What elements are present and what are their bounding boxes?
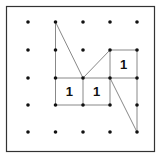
grid-dot: [54, 103, 58, 107]
grid-dot: [135, 48, 139, 52]
grid-dot: [54, 20, 58, 24]
grid-dot: [81, 76, 85, 80]
grid-dot: [26, 48, 30, 52]
grid-dot: [26, 130, 30, 134]
grid-dot: [26, 103, 30, 107]
grid-dot: [81, 48, 85, 52]
area-label: 1: [66, 84, 73, 99]
grid-dot: [135, 20, 139, 24]
grid-dot: [135, 103, 139, 107]
grid-dot: [26, 76, 30, 80]
grid-dot: [135, 130, 139, 134]
grid-dot: [54, 48, 58, 52]
grid-dot: [108, 48, 112, 52]
grid-dot: [54, 76, 58, 80]
grid-dot: [108, 76, 112, 80]
grid-dot: [54, 130, 58, 134]
grid-dot: [108, 20, 112, 24]
grid-dot: [26, 20, 30, 24]
grid-dot: [81, 20, 85, 24]
geoboard-diagram: 111: [0, 0, 162, 158]
grid-dot: [108, 103, 112, 107]
area-label: 1: [93, 84, 100, 99]
area-label: 1: [120, 57, 127, 72]
grid-dot: [81, 130, 85, 134]
grid-dot: [135, 76, 139, 80]
grid-dot: [81, 103, 85, 107]
grid-dot: [108, 130, 112, 134]
